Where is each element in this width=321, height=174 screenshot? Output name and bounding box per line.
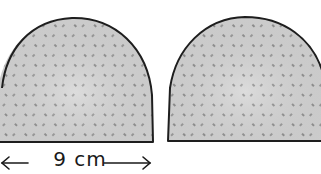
right-dome: [168, 17, 321, 141]
dimension-label: 9 cm: [0, 147, 160, 171]
dimension-text: 9 cm: [53, 147, 107, 171]
left-dome: [0, 18, 153, 142]
